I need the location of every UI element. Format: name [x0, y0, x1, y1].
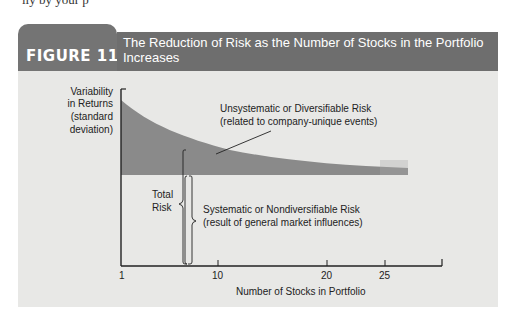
systematic-brace-inner: [185, 176, 187, 264]
x-axis-label: Number of Stocks in Portfolio: [236, 286, 366, 297]
y-axis-label-line2: in Returns: [67, 98, 113, 109]
area-fade: [380, 160, 408, 175]
systematic-risk-brace: [188, 176, 196, 264]
y-axis-label-line4: deviation): [70, 124, 113, 135]
y-axis-label-line1: Variability: [70, 86, 113, 97]
systematic-label-line1: Systematic or Nondiversifiable Risk: [203, 204, 361, 215]
risk-chart: 1 10 20 25 Number of Stocks in Portfolio…: [0, 0, 517, 326]
x-tick-label-20: 20: [321, 270, 333, 281]
total-risk-label-line1: Total: [152, 189, 173, 200]
unsystematic-label-line2: (related to company-unique events): [220, 116, 377, 127]
unsystematic-label-line1: Unsystematic or Diversifiable Risk: [220, 103, 372, 114]
unsystematic-pointer-line: [216, 131, 271, 154]
y-axis-label-line3: (standard: [71, 111, 113, 122]
total-risk-label-line2: Risk: [152, 202, 172, 213]
x-tick-label-25: 25: [379, 270, 391, 281]
systematic-label-line2: (result of general market influences): [203, 217, 363, 228]
x-tick-label-10: 10: [212, 270, 224, 281]
x-tick-label-1: 1: [119, 270, 125, 281]
